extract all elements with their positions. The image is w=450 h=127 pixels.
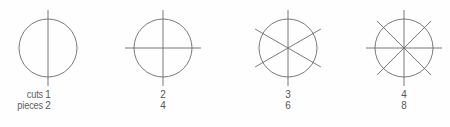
- circle-group-2: [125, 10, 201, 86]
- circle-diagram: [0, 0, 450, 127]
- pieces-value-2: 4: [150, 100, 175, 111]
- cuts-and-pieces-figure: cuts pieces 1 2 2 4 3 6 4 8: [0, 0, 450, 127]
- circle-group-4: [366, 10, 442, 86]
- pieces-value-4: 8: [391, 100, 416, 111]
- circle-group-1: [19, 10, 77, 86]
- pieces-value-3: 6: [275, 100, 300, 111]
- circle-group-3: [255, 10, 321, 86]
- pieces-value-1: 2: [35, 100, 60, 111]
